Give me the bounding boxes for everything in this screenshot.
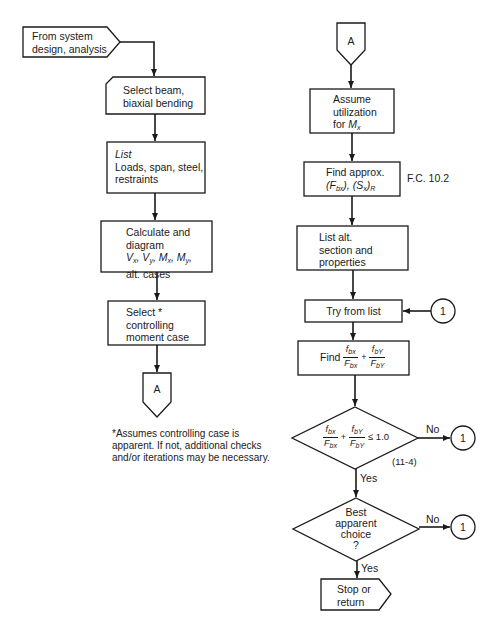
connector-a-left: A <box>143 383 171 396</box>
footnote-line2: apparent. If not, additional checks <box>112 440 270 452</box>
footnote-line3: and/or iterations may be necessary. <box>112 452 270 464</box>
decision2-yes-label: Yes <box>361 562 378 575</box>
list-alt-line1: List alt. <box>319 231 373 244</box>
decision1-no-label: No <box>426 423 439 436</box>
calculate-line2: diagram <box>126 239 192 252</box>
footnote: *Assumes controlling case is apparent. I… <box>112 428 270 464</box>
stop-terminal: Stop or return <box>337 583 371 608</box>
flowchart-lines <box>0 0 501 627</box>
assume-line2: utilization <box>333 106 377 119</box>
assume-box: Assume utilization for Mx <box>333 93 377 135</box>
find-approx-box: Find approx. (Fbx), (Sx)R <box>326 166 384 195</box>
footnote-line1: *Assumes controlling case is <box>112 428 270 440</box>
decision1-fraction-fby: fbY FbY <box>349 424 365 451</box>
decision1-rhs: ≤ 1.0 <box>368 431 389 442</box>
select-beam-line1: Select beam, <box>123 84 193 97</box>
start-line1: From system <box>32 30 107 43</box>
connector-1-decision1: 1 <box>451 432 475 445</box>
select-case-line2: controlling <box>126 319 189 332</box>
decision1-yes-label: Yes <box>360 472 377 485</box>
select-beam-line2: biaxial bending <box>123 97 193 110</box>
find-ratio-prefix: Find <box>320 351 340 363</box>
decision1-condition: fbx Fbx + fbY FbY ≤ 1.0 <box>323 424 389 451</box>
find-ratio-box: Find fbx Fbx + fbY FbY <box>320 344 385 371</box>
calculate-line1: Calculate and <box>126 226 192 239</box>
calculate-box: Calculate and diagram Vx, Vy, Mx, My, al… <box>126 226 192 280</box>
list-box: List Loads, span, steel, restraints <box>115 148 203 186</box>
list-title: List <box>115 148 203 161</box>
decision2-no-label: No <box>426 513 439 526</box>
find-approx-line1: Find approx. <box>326 166 384 179</box>
decision2-question: Best apparent choice ? <box>326 507 386 551</box>
find-approx-line2: (Fbx), (Sx)R <box>326 179 384 196</box>
assume-line3: for Mx <box>333 118 377 135</box>
list-alt-line2: section and <box>319 244 373 257</box>
select-case-line1: Select * <box>126 306 189 319</box>
fraction-fbx: fbx Fbx <box>343 344 358 371</box>
calculate-line4: alt. cases <box>126 268 192 281</box>
list-alt-line3: properties <box>319 256 373 269</box>
start-terminal: From system design, analysis <box>32 30 107 55</box>
connector-1-decision2: 1 <box>451 521 475 534</box>
select-beam-box: Select beam, biaxial bending <box>123 84 193 109</box>
select-case-line3: moment case <box>126 331 189 344</box>
fc-reference: F.C. 10.2 <box>407 172 449 185</box>
plus-sign: + <box>361 352 366 362</box>
fraction-fby: fbY FbY <box>369 344 385 371</box>
list-alt-box: List alt. section and properties <box>319 231 373 269</box>
calculate-variables: Vx, Vy, Mx, My, <box>126 251 192 268</box>
list-line2: restraints <box>115 173 203 186</box>
start-line2: design, analysis <box>32 43 107 56</box>
list-line1: Loads, span, steel, <box>115 161 203 174</box>
try-from-list-box: Try from list <box>305 305 402 318</box>
connector-1-try: 1 <box>431 305 455 318</box>
connector-a-right: A <box>337 35 365 48</box>
equation-reference: (11-4) <box>392 456 417 469</box>
assume-line1: Assume <box>333 93 377 106</box>
decision1-fraction-fbx: fbx Fbx <box>323 424 338 451</box>
select-case-box: Select * controlling moment case <box>126 306 189 344</box>
